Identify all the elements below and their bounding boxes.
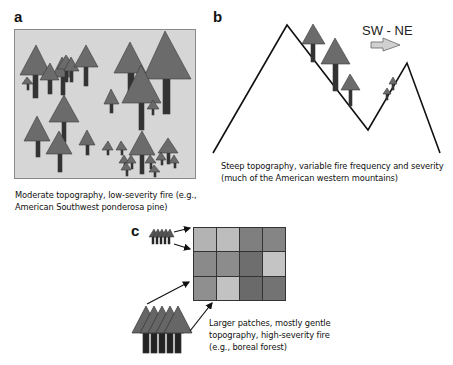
arrow-icon bbox=[174, 228, 190, 232]
small-tree-cluster-icon bbox=[149, 229, 174, 244]
panel-c-caption-line2: topography, high-severity fire bbox=[209, 329, 330, 341]
panel-c-trees-and-arrows bbox=[0, 0, 453, 365]
panel-c-caption-line1: Larger patches, mostly gentle bbox=[209, 317, 331, 329]
arrow-icon bbox=[147, 282, 189, 304]
arrow-icon bbox=[174, 244, 190, 249]
panel-c-caption-line3: (e.g., boreal forest) bbox=[209, 341, 287, 353]
large-tree-cluster-icon bbox=[132, 306, 192, 353]
